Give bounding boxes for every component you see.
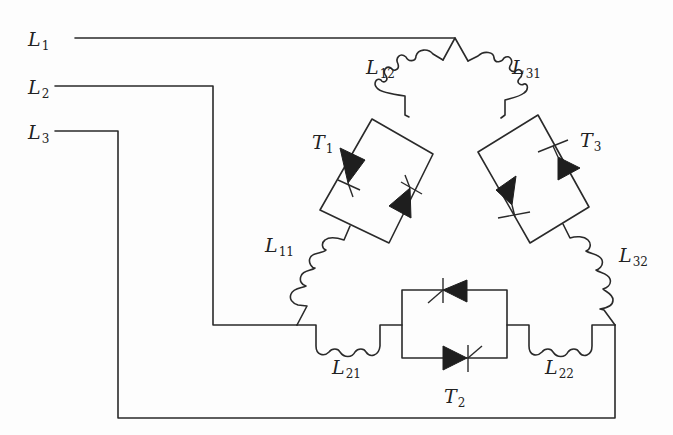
inductor-L32-coil [563,224,615,325]
inductor-L21-coil [297,325,402,357]
inductor-L11-coil [290,226,350,325]
label-L31: L31 [512,58,541,80]
label-L1: L1 [28,30,49,52]
label-L3: L3 [28,123,49,145]
thyristor-pair-T2-box [402,290,507,358]
label-L12: L12 [366,58,395,80]
apex-leads [443,38,468,61]
label-L11: L11 [265,236,294,258]
label-L2: L2 [28,78,49,100]
label-L32: L32 [619,246,648,268]
thyristor-pair-T1-box [320,119,433,243]
circuit-diagram: L1 L2 L3 L12 L31 L11 L32 L21 L22 T1 T2 T… [0,0,673,435]
thyristor-T1b-icon [389,175,422,218]
thyristor-pair-T3-box [478,115,589,243]
label-T2: T2 [444,387,465,409]
thyristor-T3b-icon [496,176,530,218]
label-T3: T3 [580,131,601,153]
wire-L2 [55,86,297,325]
label-L22: L22 [545,358,574,380]
thyristor-T3a-icon [538,140,580,180]
inductor-L22-coil [507,325,615,357]
label-T1: T1 [312,133,333,155]
label-L21: L21 [332,358,361,380]
